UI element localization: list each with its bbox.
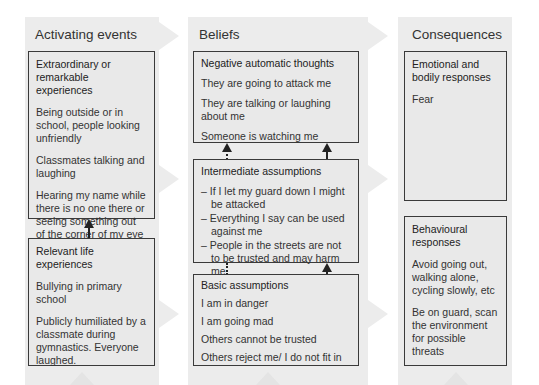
- arrowhead-up-icon: [322, 143, 332, 152]
- list-item: Avoid going out, walking alone, cycling …: [412, 258, 499, 297]
- box-title: Intermediate assumptions: [201, 165, 351, 178]
- bg-arrow-right-icon: [159, 165, 179, 193]
- column-title-beliefs: Beliefs: [199, 27, 240, 42]
- arrowhead-up-icon: [84, 219, 94, 228]
- bg-arrow-right-icon: [368, 22, 388, 50]
- list-item: Be on guard, scan the environment for po…: [412, 306, 499, 358]
- box-emotional-bodily-responses: Emotional and bodily responses Fear: [404, 51, 507, 201]
- box-title: Extraordinary or remarkable experiences: [36, 58, 147, 97]
- list-item: They are talking or laughing about me: [201, 97, 351, 123]
- bg-arrow-up-icon: [70, 372, 94, 385]
- list-item: Others cannot be trusted: [201, 333, 351, 346]
- arrowhead-up-icon: [222, 143, 232, 152]
- list-item: I am in danger: [201, 297, 351, 310]
- box-intermediate-assumptions: Intermediate assumptions – If I let my g…: [193, 159, 359, 263]
- box-title: Basic assumptions: [201, 279, 351, 292]
- box-title: Negative automatic thoughts: [201, 57, 351, 70]
- box-basic-assumptions: Basic assumptions I am in danger I am go…: [193, 274, 359, 366]
- list-item: Someone is watching me: [201, 130, 351, 143]
- column-title-activating-events: Activating events: [35, 27, 137, 42]
- list-item: Hearing my name while there is no one th…: [36, 189, 147, 241]
- list-item: Publicly humiliated by a classmate durin…: [36, 315, 147, 367]
- bg-arrow-right-icon: [368, 165, 388, 193]
- bg-arrow-up-icon: [256, 372, 280, 385]
- list-item: Being outside or in school, people looki…: [36, 106, 147, 145]
- column-title-consequences: Consequences: [412, 27, 502, 42]
- box-title: Behavioural responses: [412, 223, 499, 249]
- bg-arrow-right-icon: [159, 300, 179, 328]
- arrowhead-up-icon: [322, 263, 332, 272]
- box-negative-automatic-thoughts: Negative automatic thoughts They are goi…: [193, 51, 359, 143]
- list-item: Classmates talking and laughing: [36, 154, 147, 180]
- box-title: Relevant life experiences: [36, 245, 147, 271]
- box-behavioural-responses: Behavioural responses Avoid going out, w…: [404, 216, 507, 366]
- list-item: Others reject me/ I do not fit in: [201, 351, 351, 364]
- box-extraordinary-experiences: Extraordinary or remarkable experiences …: [28, 51, 155, 219]
- list-item: – People in the streets are not to be tr…: [201, 239, 351, 278]
- list-item: They are going to attack me: [201, 77, 351, 90]
- bg-arrow-right-icon: [368, 300, 388, 328]
- box-relevant-life-experiences: Relevant life experiences Bullying in pr…: [28, 238, 155, 366]
- list-item: – Everything I say can be used against m…: [201, 212, 351, 238]
- bg-arrow-up-icon: [444, 372, 468, 385]
- box-title: Emotional and bodily responses: [412, 58, 499, 84]
- bg-arrow-right-icon: [159, 22, 179, 50]
- list-item: Fear: [412, 93, 499, 106]
- list-item: – If I let my guard down I might be atta…: [201, 185, 351, 211]
- list-item: I am going mad: [201, 315, 351, 328]
- list-item: Bullying in primary school: [36, 280, 147, 306]
